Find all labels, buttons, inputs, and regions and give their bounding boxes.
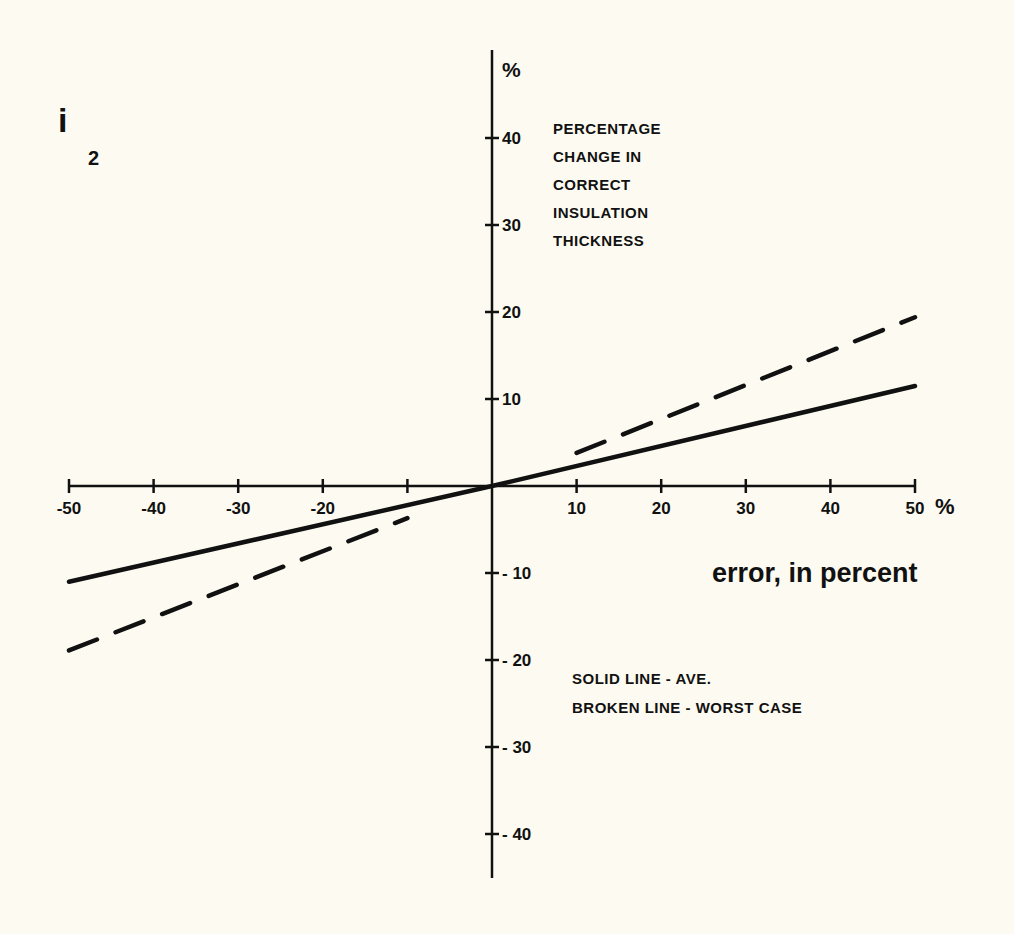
y-tick-label: 10 xyxy=(502,390,521,409)
figure-label: i xyxy=(58,101,67,139)
x-tick-label: 40 xyxy=(821,499,840,518)
worst-case-line xyxy=(577,317,915,453)
x-unit-label: % xyxy=(935,494,955,519)
chart-figure: -50-40-30-20102030405040302010- 10- 20- … xyxy=(0,0,1014,934)
y-axis-title-line: CHANGE IN xyxy=(553,148,642,165)
y-tick-label: - 20 xyxy=(502,651,531,670)
y-axis-title-line: THICKNESS xyxy=(553,232,644,249)
x-tick-label: 20 xyxy=(652,499,671,518)
worst-case-line xyxy=(69,518,407,650)
y-axis-title-line: CORRECT xyxy=(553,176,631,193)
labels: i 2 % PERCENTAGECHANGE INCORRECTINSULATI… xyxy=(58,58,955,716)
y-axis-title-line: PERCENTAGE xyxy=(553,120,661,137)
x-tick-label: -20 xyxy=(311,499,336,518)
y-tick-label: - 30 xyxy=(502,738,531,757)
x-tick-label: -50 xyxy=(57,499,82,518)
legend-entry-solid: SOLID LINE - AVE. xyxy=(572,670,711,687)
x-tick-label: -40 xyxy=(141,499,166,518)
axes: -50-40-30-20102030405040302010- 10- 20- … xyxy=(57,50,925,878)
x-tick-label: 30 xyxy=(736,499,755,518)
y-unit-label: % xyxy=(502,58,521,81)
x-axis-title: error, in percent xyxy=(712,558,918,588)
figure-label-subscript: 2 xyxy=(88,147,99,169)
y-axis-title: PERCENTAGECHANGE INCORRECTINSULATIONTHIC… xyxy=(553,120,661,249)
y-tick-label: - 40 xyxy=(502,825,531,844)
x-tick-label: 10 xyxy=(567,499,586,518)
y-axis-title-line: INSULATION xyxy=(553,204,649,221)
y-tick-label: 30 xyxy=(502,216,521,235)
y-tick-label: 20 xyxy=(502,303,521,322)
x-tick-label: -30 xyxy=(226,499,251,518)
legend-entry-broken: BROKEN LINE - WORST CASE xyxy=(572,699,802,716)
y-tick-label: - 10 xyxy=(502,564,531,583)
x-tick-label: 50 xyxy=(906,499,925,518)
y-tick-label: 40 xyxy=(502,129,521,148)
